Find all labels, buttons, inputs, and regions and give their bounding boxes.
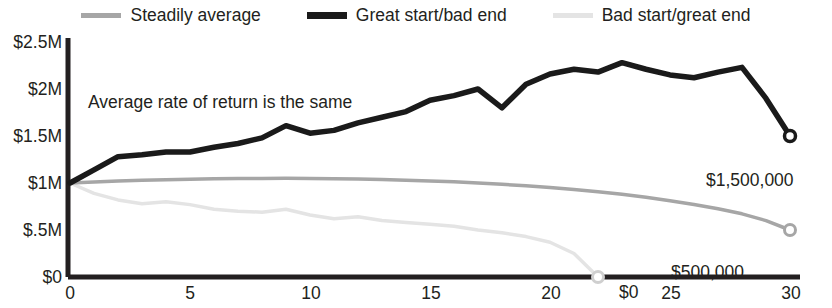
series-line-bad-start-great-end <box>70 183 598 277</box>
annotation-gray-end-value: $500,000 <box>671 262 744 282</box>
x-tick-label: 20 <box>541 282 560 304</box>
line-swatch-icon <box>307 12 347 19</box>
investment-sequence-risk-chart: Steadily average Great start/bad end Bad… <box>0 0 832 308</box>
line-swatch-icon <box>81 13 121 18</box>
x-tick-label: 10 <box>301 282 320 304</box>
annotation-average-rate: Average rate of return is the same <box>88 92 352 112</box>
plot-area: Average rate of return is the same $1,50… <box>0 30 832 308</box>
line-swatch-icon <box>553 13 593 18</box>
x-tick-label: 15 <box>421 282 440 304</box>
chart-legend: Steadily average Great start/bad end Bad… <box>0 0 832 30</box>
legend-label: Great start/bad end <box>356 5 507 25</box>
legend-label: Steadily average <box>130 5 260 25</box>
endpoint-marker-steadily-average <box>785 225 796 236</box>
legend-item-steadily-average[interactable]: Steadily average <box>81 5 260 25</box>
series-line-great-start-bad-end <box>70 63 790 183</box>
endpoint-marker-bad-start-great-end <box>593 272 604 283</box>
legend-item-bad-start-great-end[interactable]: Bad start/great end <box>553 5 751 25</box>
x-tick-label: 30 <box>781 282 800 304</box>
annotation-black-end-value: $1,500,000 <box>706 170 794 190</box>
x-axis-tick-labels: 0 5 10 15 20 25 30 <box>0 282 832 308</box>
endpoint-marker-great-start-bad-end <box>785 131 796 142</box>
x-tick-label: 0 <box>65 282 75 304</box>
legend-item-great-start-bad-end[interactable]: Great start/bad end <box>307 5 507 25</box>
x-tick-label: 5 <box>185 282 195 304</box>
legend-label: Bad start/great end <box>602 5 751 25</box>
x-tick-label: 25 <box>661 282 680 304</box>
